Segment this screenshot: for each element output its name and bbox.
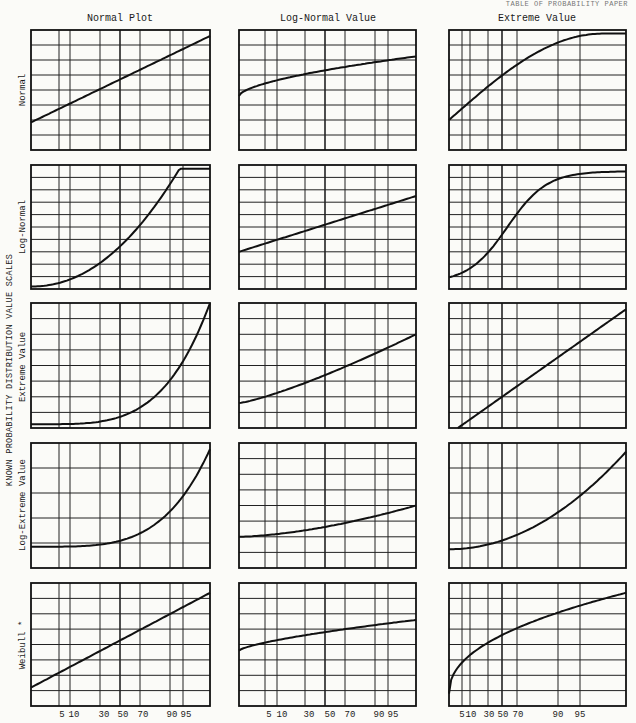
row-label-extreme: Extreme Value	[18, 307, 28, 427]
plot-panel-r2-c1	[31, 165, 210, 289]
plot-panel-r5-c3	[449, 583, 626, 706]
plot-panel-r3-c3	[449, 303, 626, 428]
plot-panel-r5-c2	[239, 583, 416, 706]
plot-panel-r4-c3	[449, 443, 626, 568]
row-label-log-normal: Log-Normal	[18, 167, 28, 287]
row-label-normal: Normal	[18, 30, 28, 150]
plot-panel-r2-c2	[239, 165, 416, 289]
plot-panel-r1-c1	[31, 30, 210, 150]
plot-panel-r4-c1	[31, 443, 210, 568]
plot-panel-r4-c2	[239, 443, 416, 568]
plot-panel-r1-c2	[239, 30, 416, 150]
plot-panel-r3-c2	[239, 303, 416, 428]
plot-panel-r2-c3	[449, 165, 626, 289]
plot-panel-r1-c3	[449, 30, 626, 150]
plot-panel-r5-c1	[31, 583, 210, 706]
page-header: TABLE OF PROBABILITY PAPER	[506, 0, 628, 8]
column-title-extreme: Extreme Value	[447, 13, 627, 24]
plot-panel-r3-c1	[31, 303, 210, 428]
side-title: KNOWN PROBABILITY DISTRIBUTION VALUE SCA…	[5, 230, 15, 510]
column-title-log-normal: Log-Normal Value	[238, 13, 418, 24]
row-label-weibull: Weibull *	[18, 585, 28, 705]
column-title-normal: Normal Plot	[30, 13, 210, 24]
row-label-log-extreme: Log-Extreme Value	[18, 445, 28, 565]
